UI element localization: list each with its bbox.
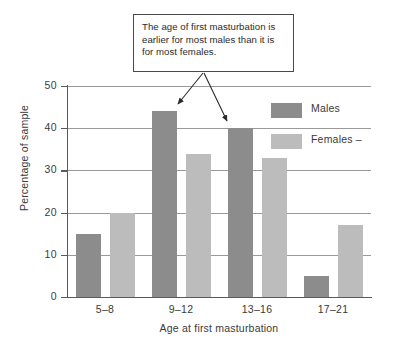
y-axis-tick-label: 0 [17,290,57,302]
x-axis-title: Age at first masturbation [67,322,371,334]
legend-label: Females – [311,133,362,145]
x-axis-tick-label: 9–12 [146,303,216,315]
bar-males [152,111,177,297]
legend-swatch-females [271,134,302,149]
bar-males [76,234,101,297]
y-axis-tick-label: 10 [17,248,57,260]
bar-females [186,154,211,297]
x-axis-tick-label: 5–8 [70,303,140,315]
bar-females [338,225,363,297]
bar-males [228,128,253,297]
legend-label: Males [311,102,340,114]
legend-swatch-males [271,103,302,118]
x-axis-tick-label: 17–21 [298,303,368,315]
annotation-text: The age of first masturbation is earlier… [142,21,286,59]
bar-females [262,158,287,297]
bars-layer [67,86,371,297]
chart-figure: 01020304050 Percentage of sample 5–89–12… [0,0,393,347]
bar-females [110,213,135,297]
x-axis-line [66,297,372,298]
bar-males [304,276,329,297]
x-axis-tick-label: 13–16 [222,303,292,315]
y-axis-title: Percentage of sample [18,88,30,228]
annotation-callout-box: The age of first masturbation is earlier… [133,14,294,72]
